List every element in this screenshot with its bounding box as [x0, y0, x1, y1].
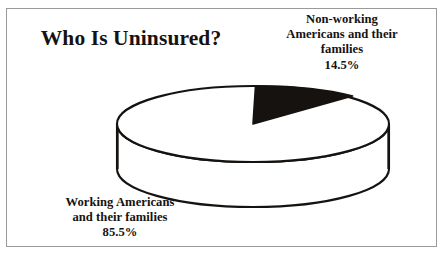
slice-label-working-line-2: and their families — [32, 210, 208, 225]
slice-label-nonworking-line-3: families — [262, 42, 422, 57]
slice-label-nonworking-line-2: Americans and their — [262, 27, 422, 42]
slice-label-nonworking-line-1: Non-working — [262, 12, 422, 27]
slice-label-nonworking: Non-working Americans and their families… — [262, 12, 422, 73]
slice-label-working-value: 85.5% — [32, 225, 208, 240]
chart-canvas: Who Is Uninsured? Non-working Americans … — [0, 0, 445, 257]
slice-label-working: Working Americans and their families 85.… — [32, 195, 208, 241]
page-title: Who Is Uninsured? — [26, 27, 236, 50]
slice-label-nonworking-value: 14.5% — [262, 58, 422, 73]
slice-label-working-line-1: Working Americans — [32, 195, 208, 210]
